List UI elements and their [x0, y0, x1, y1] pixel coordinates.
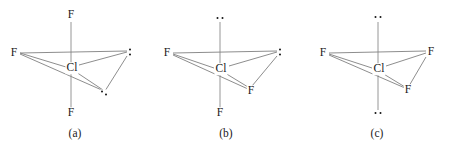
- caption-b: (b): [151, 127, 301, 139]
- bond-left-to-right: [329, 51, 426, 53]
- bond-left-to-lower-right: [20, 54, 104, 91]
- lone-pair-dot: [279, 49, 281, 51]
- bond-left-to-center: [173, 54, 214, 68]
- lone-pair-dot: [375, 112, 377, 114]
- bond-right-to-lower-right: [252, 56, 277, 86]
- atom-label-left: F: [163, 47, 172, 59]
- atom-label-left: F: [319, 47, 328, 59]
- lone-pair-right-icon: [128, 48, 132, 57]
- bond-left-to-right: [173, 51, 277, 53]
- lone-pair-dot: [279, 54, 281, 56]
- atom-label-top: F: [67, 9, 76, 21]
- atom-label-bottom: F: [216, 107, 225, 119]
- lone-pair-dot: [380, 16, 382, 18]
- lone-pair-dot: [129, 49, 131, 51]
- lone-pair-lower-right-icon: [100, 90, 108, 97]
- lewis-structures-figure: F F Cl F (a): [0, 0, 452, 150]
- bond-left-to-right: [20, 51, 127, 53]
- lone-pair-top-icon: [216, 16, 225, 20]
- lone-pair-dot: [222, 17, 224, 19]
- lone-pair-top-icon: [374, 15, 383, 19]
- bond-left-to-center: [20, 53, 66, 67]
- center-atom-label: Cl: [65, 62, 78, 74]
- bond-right-to-lower-right: [409, 57, 426, 86]
- bond-center-to-right: [79, 52, 127, 65]
- lone-pair-dot: [380, 112, 382, 114]
- bond-center-to-right: [229, 52, 277, 66]
- caption-a: (a): [0, 127, 150, 139]
- bond-left-to-lower-right: [329, 55, 405, 88]
- lewis-structure-c: F Cl F F (c): [302, 0, 452, 150]
- lone-pair-dot: [217, 17, 219, 19]
- center-atom-label: Cl: [372, 63, 385, 75]
- lone-pair-dot: [129, 54, 131, 56]
- lone-pair-right-icon: [278, 48, 282, 57]
- lone-pair-bottom-icon: [374, 111, 383, 115]
- atom-label-bottom: F: [67, 107, 76, 119]
- lone-pair-dot: [101, 91, 103, 93]
- bond-center-to-right: [386, 53, 426, 66]
- atom-label-lower-right: F: [404, 84, 413, 96]
- bond-right-to-lower-right: [105, 56, 127, 91]
- lewis-structure-b: F Cl F F (b): [151, 0, 301, 150]
- bond-center-to-lower-right: [76, 72, 103, 90]
- lone-pair-dot: [375, 16, 377, 18]
- bond-left-to-lower-right: [173, 55, 248, 89]
- atom-label-right: F: [427, 46, 436, 58]
- caption-c: (c): [302, 127, 452, 139]
- atom-label-lower-right: F: [247, 85, 256, 97]
- atom-label-left: F: [10, 47, 19, 59]
- lewis-structure-a: F F Cl F (a): [0, 0, 150, 150]
- center-atom-label: Cl: [214, 63, 227, 75]
- bond-left-to-center: [329, 54, 372, 68]
- lone-pair-dot: [105, 94, 107, 96]
